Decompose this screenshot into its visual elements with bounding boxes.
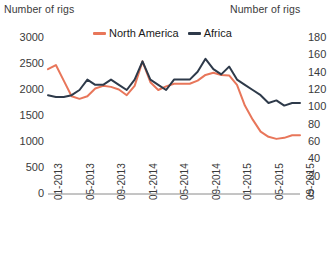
series-line-africa (48, 59, 300, 106)
plot-area (0, 0, 330, 260)
series-line-north-america (48, 61, 300, 138)
chart-figure: Number of rigs Number of rigs North Amer… (0, 0, 330, 260)
